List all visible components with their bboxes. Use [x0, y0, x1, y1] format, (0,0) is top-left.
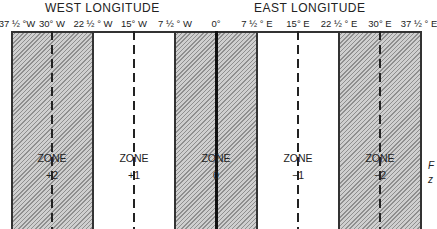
- prime-meridian-line: [215, 31, 218, 229]
- tick-22-5-e: 22 ½ ° E: [321, 18, 358, 29]
- zone-label-minus2: ZONE −2: [360, 150, 400, 184]
- boundary-7-5-e: [256, 31, 258, 229]
- boundary-22-5-w: [92, 31, 94, 229]
- tick-15-w: 15° W: [121, 18, 147, 29]
- cropped-caption-line1: F: [428, 160, 434, 171]
- boundary-7-5-w: [174, 31, 176, 229]
- cropped-caption-line2: z: [428, 174, 433, 185]
- tick-30-w: 30° W: [39, 18, 65, 29]
- boundary-37-5-e: [420, 31, 422, 229]
- zone-name: ZONE: [360, 150, 400, 167]
- boundary-22-5-e: [338, 31, 340, 229]
- zone-offset: 0: [196, 167, 236, 184]
- zone-label-plus2: ZONE +2: [32, 150, 72, 184]
- meridian-30-w-dashed: [51, 31, 53, 229]
- zone-label-plus1: ZONE +1: [114, 150, 154, 184]
- zone-offset: −1: [278, 167, 318, 184]
- meridian-15-w-dashed: [133, 31, 135, 229]
- tick-37-5-w: 37 ½ °W: [0, 18, 35, 29]
- zone-name: ZONE: [278, 150, 318, 167]
- tick-0: 0°: [211, 18, 220, 29]
- meridian-30-e-dashed: [379, 31, 381, 229]
- tick-7-5-w: 7 ½ ° W: [158, 18, 192, 29]
- zone-offset: +1: [114, 167, 154, 184]
- meridian-15-e-dashed: [297, 31, 299, 229]
- west-longitude-header: WEST LONGITUDE: [45, 1, 160, 15]
- tick-30-e: 30° E: [368, 18, 391, 29]
- tick-22-5-w: 22 ½ ° W: [73, 18, 112, 29]
- zone-name: ZONE: [32, 150, 72, 167]
- tick-15-e: 15° E: [286, 18, 309, 29]
- zone-plus2-band: [12, 31, 93, 229]
- zone-name: ZONE: [114, 150, 154, 167]
- zone-offset: −2: [360, 167, 400, 184]
- zone-label-minus1: ZONE −1: [278, 150, 318, 184]
- east-longitude-header: EAST LONGITUDE: [254, 1, 365, 15]
- zone-name: ZONE: [196, 150, 236, 167]
- tick-7-5-e: 7 ½ ° E: [241, 18, 272, 29]
- zone-label-0: ZONE 0: [196, 150, 236, 184]
- zone-offset: +2: [32, 167, 72, 184]
- tick-37-5-e: 37 ½ ° E: [401, 18, 437, 29]
- boundary-37-5-w: [11, 31, 13, 229]
